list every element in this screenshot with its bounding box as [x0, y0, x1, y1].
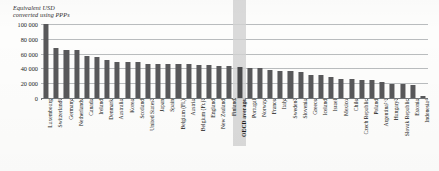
- bar-slot: [112, 24, 122, 98]
- category-label: Sweden²: [293, 99, 299, 118]
- category-label: Finland: [232, 99, 238, 116]
- bar: [410, 85, 415, 98]
- bar: [278, 71, 283, 98]
- bar: [125, 62, 130, 98]
- x-axis-tick: [173, 98, 174, 100]
- category-label: Scotland: [140, 99, 146, 119]
- category-label: Argentina²·³: [384, 99, 390, 126]
- category-label: France: [272, 99, 278, 114]
- bar-slot: [245, 24, 255, 98]
- bar: [64, 50, 69, 98]
- x-axis-tick: [296, 98, 297, 100]
- bar: [135, 62, 140, 98]
- category-label: United States²: [150, 99, 156, 131]
- x-axis-tick: [377, 98, 378, 100]
- bar-slot: [194, 24, 204, 98]
- category-label: Slovenia: [303, 99, 309, 119]
- bar: [349, 79, 354, 98]
- x-axis-tick: [41, 98, 42, 100]
- bar-slot: [265, 24, 275, 98]
- category-label: Switzerland¹: [58, 99, 64, 127]
- x-axis-tick: [316, 98, 317, 100]
- x-axis-tick: [51, 98, 52, 100]
- category-label: Israel: [333, 99, 339, 111]
- y-axis-tick-label: 60 000: [21, 50, 38, 57]
- bar: [298, 72, 303, 98]
- bar-slot: [347, 24, 357, 98]
- category-label: Spain: [170, 99, 176, 112]
- bar: [369, 80, 374, 98]
- x-axis-tick: [184, 98, 185, 100]
- category-label: Slovak Republic: [405, 99, 411, 136]
- bar: [156, 64, 161, 98]
- category-label: New Zealand: [221, 99, 227, 129]
- bar-slot: [153, 24, 163, 98]
- x-axis-tick: [336, 98, 337, 100]
- category-label: England: [211, 99, 217, 118]
- bar-slot: [235, 24, 245, 98]
- bar: [74, 50, 79, 98]
- bar-slot: [275, 24, 285, 98]
- x-axis-tick: [122, 98, 123, 100]
- category-label: Japan: [160, 99, 166, 112]
- x-axis-tick: [194, 98, 195, 100]
- bar: [206, 65, 211, 98]
- category-label: Belgium (Fr.)³: [201, 99, 207, 131]
- x-axis-tick: [72, 98, 73, 100]
- category-label: Mexico: [344, 99, 350, 116]
- category-label: Austria: [191, 99, 197, 115]
- category-label: Canada: [89, 99, 95, 116]
- category-label: Poland: [374, 99, 380, 115]
- bar: [359, 80, 364, 99]
- x-axis-tick: [387, 98, 388, 100]
- category-label: Ireland: [99, 99, 105, 115]
- x-axis-tick: [397, 98, 398, 100]
- y-axis-tick-label: 0: [35, 95, 38, 102]
- bar-slot: [377, 24, 387, 98]
- category-label: Luxembourg: [48, 99, 54, 128]
- category-axis-labels: LuxembourgSwitzerland¹GermanyNetherlands…: [41, 99, 428, 169]
- category-label: Estonia: [415, 99, 421, 116]
- bar-slot: [82, 24, 92, 98]
- y-axis-tick-label: 80 000: [21, 35, 38, 42]
- x-axis-tick: [306, 98, 307, 100]
- x-axis-tick: [82, 98, 83, 100]
- bar-slot: [133, 24, 143, 98]
- x-axis-tick: [92, 98, 93, 100]
- bar-slot: [51, 24, 61, 98]
- x-axis-tick: [255, 98, 256, 100]
- bar-slot: [367, 24, 377, 98]
- bar-slot: [173, 24, 183, 98]
- bar-slot: [316, 24, 326, 98]
- bar-slot: [61, 24, 71, 98]
- x-axis-tick: [235, 98, 236, 100]
- x-axis-tick: [112, 98, 113, 100]
- bar-slot: [408, 24, 418, 98]
- x-axis-tick: [61, 98, 62, 100]
- bar: [329, 77, 334, 98]
- x-axis-tick: [153, 98, 154, 100]
- bar: [84, 56, 89, 98]
- category-label: Hungary²: [394, 99, 400, 120]
- bar: [186, 64, 191, 98]
- x-axis-tick: [133, 98, 134, 100]
- bar: [166, 64, 171, 98]
- bar: [257, 68, 262, 98]
- bar-slot: [92, 24, 102, 98]
- bar-slot: [336, 24, 346, 98]
- category-label: Korea: [130, 99, 136, 113]
- bar: [94, 57, 99, 98]
- x-axis-tick: [204, 98, 205, 100]
- bar-slot: [285, 24, 295, 98]
- category-label: Czech Republic: [364, 99, 370, 135]
- bar-slot: [224, 24, 234, 98]
- bar: [105, 60, 110, 98]
- axis-title: Equivalent USD converted using PPPs: [13, 4, 70, 18]
- bar: [319, 75, 324, 98]
- x-axis-tick: [347, 98, 348, 100]
- x-axis-tick: [245, 98, 246, 100]
- bar: [227, 66, 232, 98]
- x-axis-tick: [265, 98, 266, 100]
- x-axis-tick: [275, 98, 276, 100]
- chart-page: Equivalent USD converted using PPPs 100 …: [0, 0, 439, 171]
